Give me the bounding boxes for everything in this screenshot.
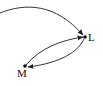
node-label-M: M xyxy=(17,67,27,79)
node-label-L: L xyxy=(88,31,95,43)
node-L xyxy=(83,35,87,39)
graph-canvas: L M xyxy=(0,0,103,86)
edge-L-to-M xyxy=(28,39,84,67)
edge-offscreen-to-L xyxy=(0,7,83,35)
